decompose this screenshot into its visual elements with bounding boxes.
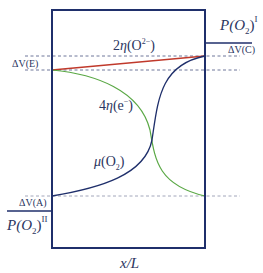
- label-dv-a: ΔV(A): [19, 197, 47, 209]
- label-mu-o2: μ(O2): [93, 154, 125, 172]
- label-p-o2-ii: P(O2)II: [6, 214, 48, 236]
- label-dv-c: ΔV(C): [228, 44, 255, 56]
- curve-mu-o2: [52, 56, 205, 196]
- curve-eta-o2minus: [52, 56, 205, 70]
- label-dv-e: ΔV(E): [12, 58, 38, 70]
- curve-eta-e: [52, 70, 205, 196]
- label-p-o2-i: P(O2)I: [219, 14, 258, 36]
- label-2eta-o2minus: 2η(O2−): [113, 37, 155, 54]
- x-axis-label: x/L: [119, 255, 139, 271]
- label-4eta-e: 4η(e−): [99, 97, 133, 114]
- diagram-canvas: ΔV(E) ΔV(C) ΔV(A) P(O2)I P(O2)II 2η(O2−)…: [0, 0, 263, 273]
